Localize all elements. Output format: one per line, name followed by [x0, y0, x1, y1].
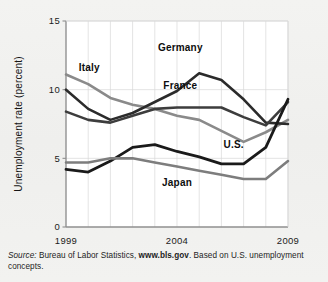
series-label-italy: Italy: [79, 62, 100, 73]
source-note-prefix: Source:: [8, 251, 37, 260]
unemployment-line-chart: 051015 199920042009 ItalyGermanyFranceU.…: [0, 0, 328, 250]
series-label-japan: Japan: [162, 177, 192, 188]
y-tick-label: 15: [49, 15, 60, 26]
chart-area: 051015 199920042009 ItalyGermanyFranceU.…: [0, 0, 328, 250]
series-label-france: France: [163, 80, 197, 91]
x-axis-tick-labels: 199920042009: [55, 235, 299, 246]
source-note-agency: Bureau of Labor Statistics,: [37, 251, 139, 260]
series-label-germany: Germany: [158, 42, 203, 53]
x-tick-label: 1999: [55, 235, 77, 246]
x-tick-label: 2009: [277, 235, 299, 246]
source-note-link[interactable]: www.bls.gov: [139, 251, 189, 260]
y-tick-label: 10: [49, 84, 60, 95]
y-tick-label: 0: [54, 221, 60, 232]
y-axis-tick-labels: 051015: [49, 15, 66, 232]
figure-panel: 051015 199920042009 ItalyGermanyFranceU.…: [0, 0, 328, 282]
y-axis-title-text: Unemployment rate (percent): [13, 56, 24, 191]
series-label-us: U.S.: [223, 139, 243, 150]
x-tick-label: 2004: [166, 235, 188, 246]
source-note: Source: Bureau of Labor Statistics, www.…: [8, 250, 320, 272]
y-tick-label: 5: [54, 153, 60, 164]
y-axis-title: Unemployment rate (percent): [13, 56, 24, 191]
